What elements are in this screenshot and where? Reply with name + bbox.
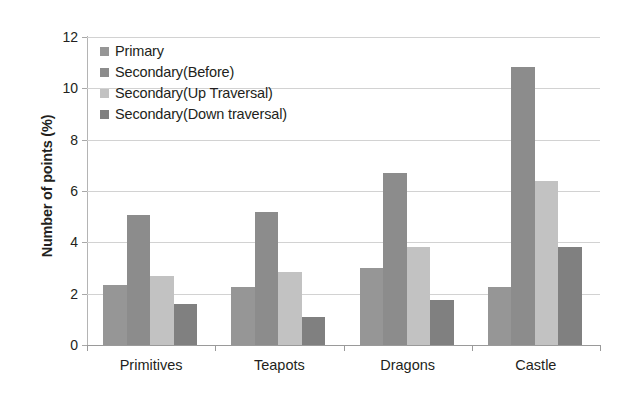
y-axis-tick-label: 8 — [50, 133, 78, 147]
x-axis-tick — [215, 345, 216, 351]
bar — [231, 287, 255, 345]
bar — [383, 173, 407, 345]
bar — [174, 304, 198, 345]
y-axis-tick-label: 4 — [50, 235, 78, 249]
y-axis-tick-label-wrap: 8 — [44, 133, 78, 147]
x-axis-category-label: Dragons — [344, 357, 472, 373]
x-axis-category-label: Castle — [472, 357, 600, 373]
legend-item: Secondary(Up Traversal) — [100, 83, 350, 103]
legend-label: Secondary(Up Traversal) — [115, 86, 273, 101]
legend-item: Secondary(Before) — [100, 62, 350, 82]
y-axis-tick-label-wrap: 0 — [44, 338, 78, 352]
chart-legend: PrimarySecondary(Before)Secondary(Up Tra… — [100, 41, 350, 125]
bar — [558, 247, 582, 345]
x-axis-category-label: Teapots — [215, 357, 343, 373]
bar — [103, 285, 127, 345]
x-axis-tick — [87, 345, 88, 351]
bar — [360, 268, 384, 345]
bar — [150, 276, 174, 345]
y-axis-tick-label: 12 — [50, 30, 78, 44]
legend-item: Secondary(Down traversal) — [100, 104, 350, 124]
y-axis-tick-label: 6 — [50, 184, 78, 198]
legend-swatch-icon — [100, 89, 109, 98]
bar — [430, 300, 454, 345]
x-axis-tick — [600, 345, 601, 351]
y-axis-tick-label-wrap: 12 — [44, 30, 78, 44]
legend-swatch-icon — [100, 47, 109, 56]
x-axis-category-label: Primitives — [87, 357, 215, 373]
legend-label: Secondary(Down traversal) — [115, 107, 287, 122]
legend-item: Primary — [100, 41, 350, 61]
bar — [407, 247, 431, 345]
legend-label: Secondary(Before) — [115, 65, 234, 80]
x-axis-tick — [344, 345, 345, 351]
bar — [255, 212, 279, 345]
bar-chart: Number of points (%) 024681012 Primitive… — [0, 0, 634, 406]
bar — [278, 272, 302, 345]
y-axis-tick-label-wrap: 6 — [44, 184, 78, 198]
x-axis-tick — [472, 345, 473, 351]
legend-label: Primary — [115, 44, 164, 59]
y-axis-tick-label: 0 — [50, 338, 78, 352]
bar — [302, 317, 326, 345]
bar — [488, 287, 512, 345]
bar — [535, 181, 559, 345]
y-axis-tick-label-wrap: 4 — [44, 235, 78, 249]
y-axis-tick-label: 10 — [50, 81, 78, 95]
legend-swatch-icon — [100, 110, 109, 119]
y-axis-tick-label-wrap: 10 — [44, 81, 78, 95]
bar — [511, 67, 535, 345]
y-axis-tick-label-wrap: 2 — [44, 287, 78, 301]
bar — [127, 215, 151, 345]
legend-swatch-icon — [100, 68, 109, 77]
y-axis-tick-label: 2 — [50, 287, 78, 301]
